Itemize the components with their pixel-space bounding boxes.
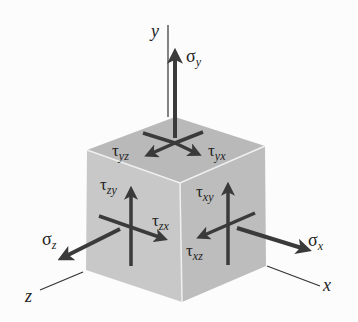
z-axis-label: z xyxy=(24,286,32,306)
sigma-z-label: σz xyxy=(42,229,57,252)
y-axis-label: y xyxy=(149,21,159,41)
x-axis-line xyxy=(267,266,320,286)
x-axis-label: x xyxy=(322,275,331,295)
stress-cube-diagram: y z x σy σz σx τyz τyx τzy τzx τxy τxz xyxy=(0,0,358,322)
sigma-y-label: σy xyxy=(186,46,202,69)
sigma-x-label: σx xyxy=(308,230,324,253)
z-axis-line xyxy=(40,272,83,290)
diagram-canvas: y z x σy σz σx τyz τyx τzy τzx τxy τxz xyxy=(0,0,358,322)
